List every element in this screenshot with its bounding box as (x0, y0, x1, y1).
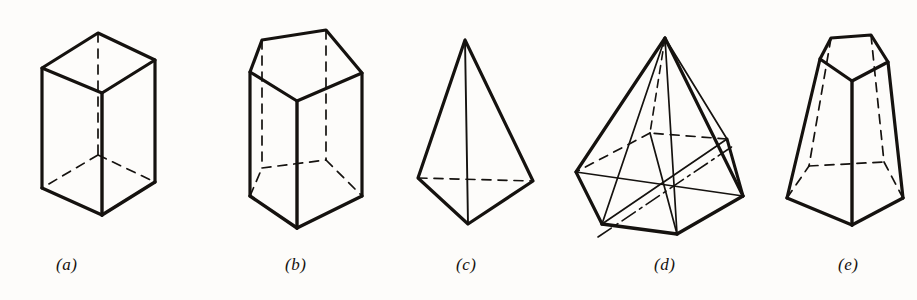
figure-caption-a: (a) (56, 255, 77, 275)
figure-a-cube (42, 33, 155, 215)
figure-c-tetrahedron (418, 40, 533, 224)
figure-caption-b: (b) (285, 255, 306, 275)
figure-d-hexagonal-pyramid (576, 38, 743, 237)
figure-b-pentagonal-prism (250, 30, 362, 228)
figure-caption-c: (c) (456, 255, 476, 275)
figure-e-pentagonal-frustum (787, 35, 903, 225)
figure-page: (a) (b) (c) (d) (e) (0, 0, 917, 300)
figure-caption-e: (e) (838, 255, 858, 275)
figure-caption-d: (d) (654, 255, 675, 275)
